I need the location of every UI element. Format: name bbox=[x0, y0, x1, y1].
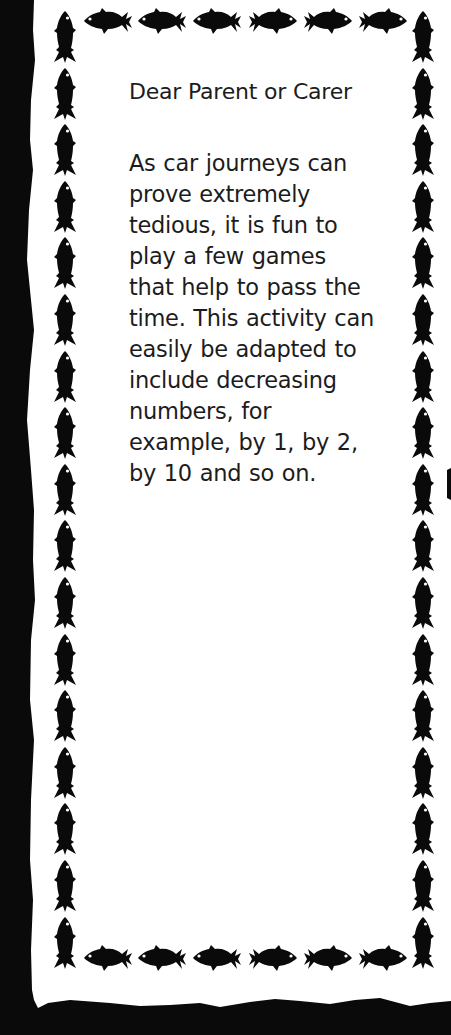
fish-icon bbox=[52, 633, 78, 687]
fish-icon bbox=[52, 916, 78, 970]
fish-icon bbox=[410, 916, 436, 970]
fish-icon bbox=[410, 746, 436, 800]
fish-icon bbox=[52, 67, 78, 121]
body-paragraph: As car journeys can prove extremely tedi… bbox=[129, 148, 399, 489]
fish-icon bbox=[52, 802, 78, 856]
fish-icon bbox=[52, 180, 78, 234]
letter-page: Dear Parent or Carer As car journeys can… bbox=[0, 0, 451, 1035]
fish-icon bbox=[52, 293, 78, 347]
fish-icon bbox=[52, 746, 78, 800]
fish-icon bbox=[52, 689, 78, 743]
fish-icon bbox=[52, 576, 78, 630]
fish-icon bbox=[357, 943, 409, 973]
fish-icon bbox=[52, 350, 78, 404]
fish-icon bbox=[410, 689, 436, 743]
fish-icon bbox=[410, 293, 436, 347]
fish-icon bbox=[410, 633, 436, 687]
fish-icon bbox=[191, 6, 243, 36]
fish-icon bbox=[410, 859, 436, 913]
body-line: As car journeys can bbox=[129, 148, 399, 179]
fish-icon bbox=[410, 123, 436, 177]
body-line: tedious, it is fun to bbox=[129, 210, 399, 241]
fish-icon bbox=[191, 943, 243, 973]
fish-icon bbox=[410, 463, 436, 517]
fish-icon bbox=[410, 576, 436, 630]
fish-icon bbox=[247, 943, 299, 973]
fish-icon bbox=[410, 406, 436, 460]
body-line: by 10 and so on. bbox=[129, 458, 399, 489]
fish-icon bbox=[410, 10, 436, 64]
fish-icon bbox=[52, 859, 78, 913]
body-line: include decreasing bbox=[129, 365, 399, 396]
fish-icon bbox=[52, 519, 78, 573]
fish-icon bbox=[136, 943, 188, 973]
fish-icon bbox=[52, 463, 78, 517]
fish-icon bbox=[136, 6, 188, 36]
fish-icon bbox=[410, 67, 436, 121]
body-line: time. This activity can bbox=[129, 303, 399, 334]
fish-icon bbox=[410, 802, 436, 856]
body-line: example, by 1, by 2, bbox=[129, 427, 399, 458]
fish-icon bbox=[302, 943, 354, 973]
fish-icon bbox=[357, 6, 409, 36]
body-line: numbers, for bbox=[129, 396, 399, 427]
letter-content: Dear Parent or Carer As car journeys can… bbox=[129, 78, 399, 489]
fish-icon bbox=[82, 6, 134, 36]
body-line: prove extremely bbox=[129, 179, 399, 210]
fish-icon bbox=[302, 6, 354, 36]
fish-icon bbox=[52, 236, 78, 290]
fish-icon bbox=[410, 350, 436, 404]
fish-icon bbox=[82, 943, 134, 973]
fish-icon bbox=[410, 519, 436, 573]
body-line: easily be adapted to bbox=[129, 334, 399, 365]
greeting-heading: Dear Parent or Carer bbox=[129, 78, 399, 106]
fish-icon bbox=[52, 10, 78, 64]
fish-icon bbox=[52, 406, 78, 460]
fish-icon bbox=[410, 236, 436, 290]
body-line: that help to pass the bbox=[129, 272, 399, 303]
body-line: play a few games bbox=[129, 241, 399, 272]
fish-icon bbox=[410, 180, 436, 234]
fish-icon bbox=[52, 123, 78, 177]
fish-icon bbox=[247, 6, 299, 36]
